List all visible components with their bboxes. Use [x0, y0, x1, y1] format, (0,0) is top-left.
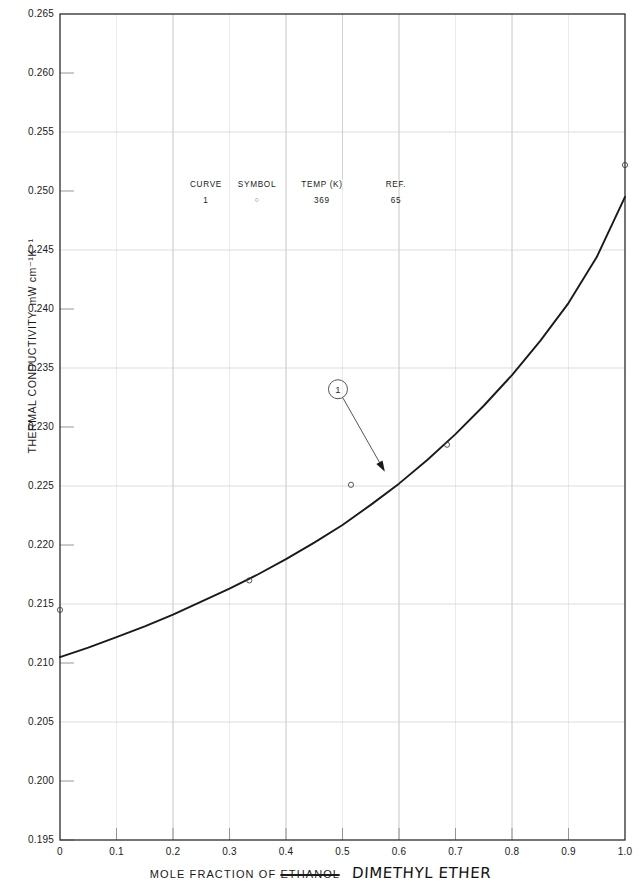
x-tick-label: 0.3 — [210, 846, 250, 857]
x-axis-title: MOLE FRACTION OF ETHANOL DIMETHYL ETHER — [0, 864, 641, 882]
x-tick-label: 0.7 — [436, 846, 476, 857]
annotation-leader-line — [343, 398, 381, 464]
x-tick-label: 0.4 — [266, 846, 306, 857]
chart-canvas: 1 — [0, 0, 641, 890]
x-axis-title-handwritten: DIMETHYL ETHER — [351, 864, 491, 882]
x-tick-label: 0.8 — [492, 846, 532, 857]
y-tick-label: 0.245 — [2, 244, 54, 255]
x-tick-label: 0.9 — [549, 846, 589, 857]
x-tick-label: 1.0 — [605, 846, 641, 857]
annotation-arrowhead — [376, 460, 385, 471]
y-tick-label: 0.215 — [2, 598, 54, 609]
y-tick-label: 0.260 — [2, 67, 54, 78]
y-axis-title: THERMAL CONDUCTIVITY, mW cm⁻¹K⁻¹ — [26, 196, 38, 496]
y-tick-label: 0.250 — [2, 185, 54, 196]
x-tick-label: 0.5 — [323, 846, 363, 857]
y-tick-label: 0.195 — [2, 834, 54, 845]
annotation-label: 1 — [335, 384, 340, 395]
y-tick-label: 0.220 — [2, 539, 54, 550]
y-tick-label: 0.240 — [2, 303, 54, 314]
x-axis-title-prefix: MOLE FRACTION OF — [150, 868, 276, 880]
x-axis-title-struck: ETHANOL — [280, 868, 339, 880]
x-tick-label: 0.6 — [379, 846, 419, 857]
data-point-marker — [348, 482, 353, 487]
y-tick-label: 0.230 — [2, 421, 54, 432]
chart-figure: 1 THERMAL CONDUCTIVITY, mW cm⁻¹K⁻¹ MOLE … — [0, 0, 641, 890]
curve-annotation: 1 — [328, 380, 384, 472]
axis-ticks — [60, 14, 569, 840]
y-tick-label: 0.235 — [2, 362, 54, 373]
y-tick-label: 0.265 — [2, 8, 54, 19]
y-tick-label: 0.200 — [2, 775, 54, 786]
x-tick-label: 0.2 — [153, 846, 193, 857]
x-tick-label: 0 — [40, 846, 80, 857]
y-tick-label: 0.255 — [2, 126, 54, 137]
y-tick-label: 0.210 — [2, 657, 54, 668]
y-tick-label: 0.225 — [2, 480, 54, 491]
y-tick-label: 0.205 — [2, 716, 54, 727]
x-tick-label: 0.1 — [97, 846, 137, 857]
